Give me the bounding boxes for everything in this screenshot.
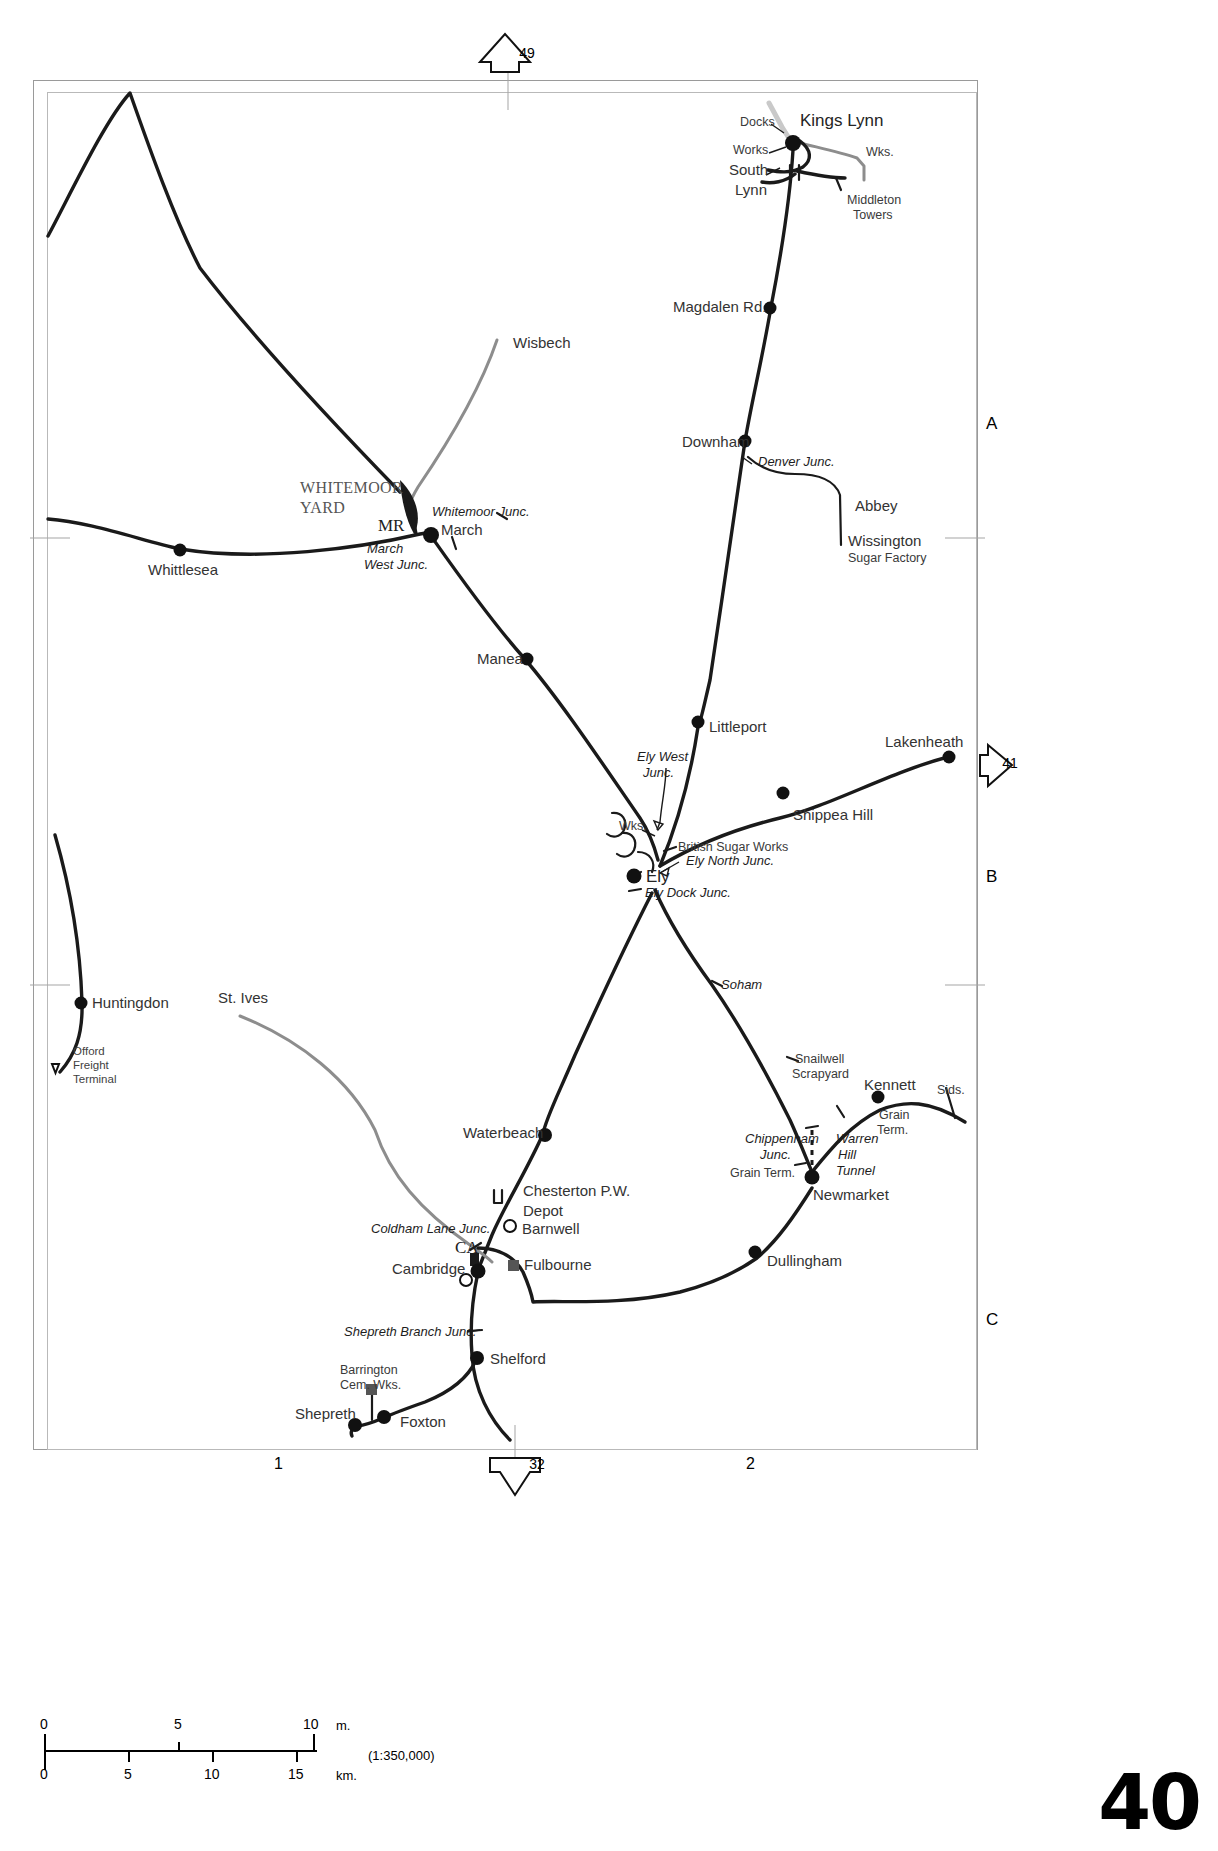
label-sids: Sids. [937,1083,965,1097]
label-whitemoor: WHITEMOOR [300,479,403,497]
label-chippenham: Chippenham [745,1132,819,1147]
label-hill: Hill [838,1148,856,1163]
label-kings-lynn: Kings Lynn [800,111,883,131]
scale-label-m-5: 5 [174,1716,182,1732]
label-terminal: Terminal [73,1073,116,1086]
label-whittlesea: Whittlesea [148,561,218,578]
label-whitemoor-junc: Whitemoor Junc. [432,505,530,520]
map-frame-inner [47,92,977,1450]
label-freight: Freight [73,1059,109,1072]
label-lakenheath: Lakenheath [885,733,963,750]
label-docks: Docks [740,115,775,129]
label-sugar-factory: Sugar Factory [848,551,927,565]
scale-tick-m-5 [178,1742,180,1752]
label-newmarket: Newmarket [813,1186,889,1203]
grid-row-c: C [986,1310,998,1330]
label-ely-north-junc: Ely North Junc. [686,854,774,869]
label-cambridge: Cambridge [392,1260,465,1277]
label-offord: Offord [73,1045,105,1058]
label-st-ives: St. Ives [218,989,268,1006]
label-ely-west: Ely West [637,750,688,765]
scale-tick-m-0 [44,1734,46,1752]
label-grain-term: Grain Term. [730,1166,795,1180]
label-magdalen-rd: Magdalen Rd. [673,298,766,315]
label-mr: MR [378,516,404,536]
scale-label-km-5: 5 [124,1766,132,1782]
label-ca: CA [455,1238,479,1258]
label-soham: Soham [721,978,762,993]
label-march: March [441,521,483,538]
label-shelford: Shelford [490,1350,546,1367]
label-chesterton-pw: Chesterton P.W. [523,1182,630,1199]
label-shippea-hill: Shippea Hill [793,806,873,823]
label-barrington: Barrington [340,1363,398,1377]
railway-atlas-page: Kings Lynn Docks Works South Lynn Wks. M… [0,0,1218,1851]
label-ely: Ely [646,867,670,887]
label-south: South [729,161,768,178]
label-chippenham-junc: Junc. [760,1148,791,1163]
grid-row-a: A [986,414,997,434]
label-huntingdon: Huntingdon [92,994,169,1011]
label-wisbech: Wisbech [513,334,571,351]
label-chesterton-depot: Depot [523,1202,563,1219]
label-works: Works [733,143,768,157]
label-snailwell: Snailwell [795,1052,844,1066]
label-denver-junc: Denver Junc. [758,455,835,470]
scale-tick-km-5 [128,1752,130,1762]
scale-unit-miles: m. [336,1718,350,1733]
scale-bar: 0 5 10 m. 0 5 10 15 km. (1:350,000) [40,1712,460,1822]
label-littleport: Littleport [709,718,767,735]
label-foxton: Foxton [400,1413,446,1430]
scale-unit-km: km. [336,1768,357,1783]
connector-41-number: 41 [997,756,1023,770]
label-wissington: Wissington [848,532,921,549]
scale-label-km-15: 15 [288,1766,304,1782]
label-kennett: Kennett [864,1076,916,1093]
label-middleton: Middleton [847,193,901,207]
label-downham: Downham [682,433,750,450]
label-coldham-lane-junc: Coldham Lane Junc. [371,1222,490,1237]
page-number: 40 [1098,1765,1200,1841]
scale-label-km-10: 10 [204,1766,220,1782]
label-shepreth-branch-junc: Shepreth Branch Junc. [344,1325,476,1340]
label-march-west-1: March [367,542,403,557]
grid-col-1: 1 [274,1455,283,1473]
label-lynn: Lynn [735,181,767,198]
label-waterbeach: Waterbeach [463,1124,543,1141]
label-term-kennett: Term. [877,1123,908,1137]
label-cem-wks: Cem. Wks. [340,1378,401,1392]
label-grain-kennett: Grain [879,1108,910,1122]
scale-bar-line [44,1750,317,1752]
scale-ratio: (1:350,000) [368,1748,435,1763]
label-barnwell: Barnwell [522,1220,580,1237]
scale-label-m-0: 0 [40,1716,48,1732]
scale-tick-km-10 [212,1752,214,1762]
label-fulbourne: Fulbourne [524,1256,592,1273]
label-towers: Towers [853,208,893,222]
label-abbey: Abbey [855,497,898,514]
grid-row-b: B [986,867,997,887]
label-yard: YARD [300,499,345,517]
label-manea: Manea [477,650,523,667]
grid-col-2: 2 [746,1455,755,1473]
label-scrapyard: Scrapyard [792,1067,849,1081]
label-march-west-junc: West Junc. [364,558,428,573]
label-wks-kings-lynn: Wks. [866,145,894,159]
label-tunnel: Tunnel [836,1164,875,1179]
label-shepreth: Shepreth [295,1405,356,1422]
label-ely-dock-junc: Ely Dock Junc. [645,886,731,901]
label-warren: Warren [836,1132,878,1147]
scale-tick-km-15 [296,1752,298,1762]
label-wks-ely: Wks. [619,819,647,833]
connector-32-number: 32 [515,1457,559,1471]
label-dullingham: Dullingham [767,1252,842,1269]
label-ely-west-junc: Junc. [643,766,674,781]
connector-49-number: 49 [505,46,549,60]
scale-tick-m-10 [313,1734,315,1752]
scale-label-km-0: 0 [40,1766,48,1782]
scale-label-m-10: 10 [303,1716,319,1732]
